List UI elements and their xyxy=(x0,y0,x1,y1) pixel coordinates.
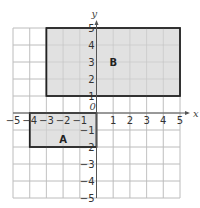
y-tick-label: 2 xyxy=(88,74,94,85)
x-tick-label: 5 xyxy=(177,115,183,126)
y-tick-label: −5 xyxy=(80,193,95,204)
y-tick-label: 4 xyxy=(88,40,94,51)
coordinate-grid: xy0−5−4−3−2−11234554321−1−2−3−4−5AB xyxy=(0,0,200,208)
origin-label: 0 xyxy=(90,101,97,112)
y-tick-label: −3 xyxy=(80,159,95,170)
x-tick-label: 4 xyxy=(160,115,166,126)
x-tick-label: 2 xyxy=(127,115,133,126)
y-axis-arrow-icon xyxy=(95,20,99,25)
x-tick-label: −3 xyxy=(39,115,54,126)
shape-label-b: B xyxy=(109,57,117,68)
x-tick-label: 1 xyxy=(110,115,116,126)
x-tick-label: −5 xyxy=(6,115,21,126)
y-tick-label: 1 xyxy=(88,91,94,102)
y-axis-label: y xyxy=(91,8,98,19)
y-tick-label: 5 xyxy=(88,23,94,34)
shape-label-a: A xyxy=(59,134,67,145)
x-tick-label: −2 xyxy=(56,115,71,126)
y-tick-label: −2 xyxy=(80,142,95,153)
x-axis-arrow-icon xyxy=(185,111,190,115)
y-tick-label: −4 xyxy=(80,176,95,187)
y-tick-label: −1 xyxy=(80,125,95,136)
y-tick-label: 3 xyxy=(88,57,94,68)
x-tick-label: −4 xyxy=(22,115,37,126)
x-axis-label: x xyxy=(193,108,199,119)
x-tick-label: 3 xyxy=(143,115,149,126)
